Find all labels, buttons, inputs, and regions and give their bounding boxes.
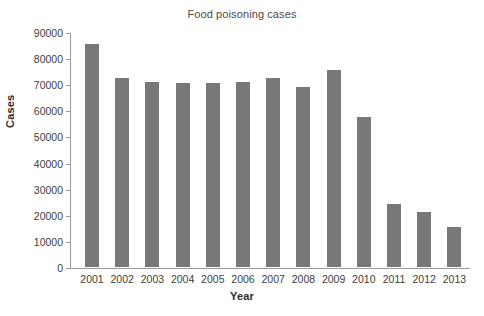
x-axis-tick-label: 2005 [196,273,230,285]
y-axis-tick-mark [66,59,70,60]
y-axis-line [70,33,71,269]
y-axis-tick-label: 40000 [34,158,63,170]
x-axis-tick-label: 2007 [256,273,290,285]
y-axis-tick-label: 60000 [34,105,63,117]
y-axis-tick-mark [66,33,70,34]
y-axis-tick-mark [66,268,70,269]
y-axis-tick-label: 10000 [34,236,63,248]
y-axis-tick-label: 30000 [34,184,63,196]
y-axis-tick-label: 20000 [34,210,63,222]
x-axis-title: Year [0,290,484,302]
bar [417,212,431,267]
x-axis-tick-label: 2010 [347,273,381,285]
bar [206,83,220,267]
bar [447,227,461,267]
x-axis-line [70,268,470,269]
bar [145,82,159,267]
x-axis-tick-label: 2011 [377,273,411,285]
x-axis-tick-label: 2001 [75,273,109,285]
plot-area: 9000080000700006000050000400003000020000… [70,33,470,268]
bar [327,70,341,267]
chart-title: Food poisoning cases [0,8,484,20]
y-axis-tick-mark [66,85,70,86]
bar [266,78,280,267]
bar [296,87,310,267]
x-axis-tick-label: 2012 [407,273,441,285]
y-axis-tick-mark [66,111,70,112]
bar [115,78,129,267]
y-axis-tick-mark [66,190,70,191]
y-axis-tick-label: 50000 [34,131,63,143]
x-axis-tick-label: 2003 [135,273,169,285]
bar [236,82,250,267]
bar [176,83,190,267]
bar [387,204,401,267]
y-axis-tick-label: 0 [57,262,63,274]
y-axis-title: Cases [4,95,16,128]
bar [357,117,371,267]
x-axis-tick-label: 2009 [317,273,351,285]
x-axis-tick-label: 2008 [286,273,320,285]
x-axis-tick-label: 2004 [166,273,200,285]
x-axis-tick-label: 2006 [226,273,260,285]
x-axis-tick-label: 2002 [105,273,139,285]
chart-page: Food poisoning cases 9000080000700006000… [0,0,484,316]
y-axis-tick-label: 70000 [34,79,63,91]
x-axis-tick-label: 2013 [437,273,471,285]
y-axis-tick-mark [66,242,70,243]
y-axis-tick-mark [66,137,70,138]
y-axis-tick-label: 80000 [34,53,63,65]
y-axis-tick-label: 90000 [34,27,63,39]
bar [85,44,99,267]
y-axis-tick-mark [66,216,70,217]
y-axis-tick-mark [66,164,70,165]
